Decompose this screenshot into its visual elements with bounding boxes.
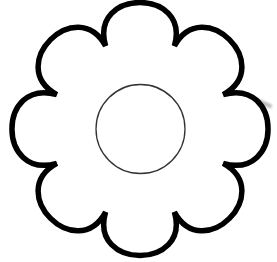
flower-illustration bbox=[0, 0, 277, 262]
flower-svg bbox=[0, 0, 277, 262]
flower-center-circle bbox=[96, 85, 185, 174]
